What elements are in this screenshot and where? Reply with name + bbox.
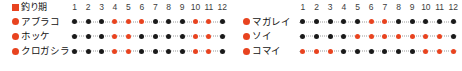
month-cell — [81, 34, 94, 39]
month-tick: 12 — [446, 2, 460, 13]
month-cell — [392, 19, 406, 24]
month-cell — [337, 34, 351, 39]
series-dot-icon — [12, 48, 19, 55]
season-dot-active — [437, 49, 442, 54]
season-dot — [180, 19, 185, 24]
month-cell — [122, 34, 135, 39]
chart-panel-right: 1 2 3 4 5 6 7 8 9 10 11 12 マガレイ — [231, 0, 462, 71]
series-dot-icon — [243, 18, 250, 25]
month-cell — [189, 49, 202, 54]
season-dot — [314, 34, 319, 39]
month-cell — [364, 19, 378, 24]
series-label: ホッケ — [21, 31, 50, 41]
month-tick: 5 — [351, 2, 365, 13]
month-cell — [323, 49, 337, 54]
series-dot-icon — [243, 33, 250, 40]
series-label-cell: クロガシラ — [12, 46, 68, 56]
month-cell — [337, 19, 351, 24]
season-dot — [328, 34, 333, 39]
month-cell — [378, 49, 392, 54]
month-cell — [296, 19, 310, 24]
season-dot-active — [382, 34, 387, 39]
month-cell — [135, 19, 148, 24]
season-dot — [355, 19, 360, 24]
season-dot-active — [112, 19, 117, 24]
season-dot-active — [410, 34, 415, 39]
month-cell — [419, 34, 433, 39]
season-dot-active — [193, 34, 198, 39]
season-dot-active — [369, 19, 374, 24]
season-dot — [99, 19, 104, 24]
month-tick: 3 — [323, 2, 337, 13]
month-cell — [68, 19, 81, 24]
season-dot — [180, 34, 185, 39]
month-cell — [364, 49, 378, 54]
season-dot-active — [423, 34, 428, 39]
month-cell — [351, 49, 365, 54]
month-tick: 12 — [216, 2, 229, 13]
chart-row: コマイ — [243, 44, 462, 59]
season-dot — [355, 49, 360, 54]
month-cell — [108, 49, 121, 54]
season-dot-active — [451, 49, 456, 54]
season-dot-active — [300, 49, 305, 54]
month-cell — [364, 34, 378, 39]
chart-row: マガレイ — [243, 15, 462, 30]
series-track — [296, 15, 462, 30]
month-cell — [378, 19, 392, 24]
series-label: マガレイ — [252, 17, 291, 27]
season-dot — [99, 34, 104, 39]
month-cell — [433, 19, 447, 24]
month-cell — [95, 19, 108, 24]
season-dot — [341, 49, 346, 54]
month-cell — [108, 19, 121, 24]
season-dot — [410, 49, 415, 54]
month-cell — [149, 19, 162, 24]
chart-row: ソイ — [243, 29, 462, 44]
month-cell — [351, 19, 365, 24]
month-tick: 3 — [95, 2, 108, 13]
month-cell — [81, 19, 94, 24]
season-dot — [341, 19, 346, 24]
month-cell — [378, 34, 392, 39]
month-tick: 5 — [122, 2, 135, 13]
season-square-icon — [12, 4, 19, 11]
season-dot — [166, 49, 171, 54]
season-dot — [153, 34, 158, 39]
month-cell — [337, 49, 351, 54]
season-dot — [437, 19, 442, 24]
month-tick: 8 — [392, 2, 406, 13]
season-dot-active — [437, 34, 442, 39]
month-cell — [405, 49, 419, 54]
season-dot — [166, 34, 171, 39]
season-dot — [300, 34, 305, 39]
series-label-cell: アブラコ — [12, 17, 68, 27]
series-track — [68, 15, 231, 30]
month-tick: 4 — [108, 2, 121, 13]
month-cell — [202, 19, 215, 24]
season-dot-active — [112, 49, 117, 54]
month-cell — [351, 34, 365, 39]
legend-entry: 釣り期 — [12, 2, 68, 12]
chart-header-row-right: 1 2 3 4 5 6 7 8 9 10 11 12 — [243, 0, 462, 15]
month-cell — [405, 34, 419, 39]
month-tick: 11 — [202, 2, 215, 13]
month-tick: 10 — [189, 2, 202, 13]
month-cell — [216, 19, 229, 24]
season-dot-active — [206, 34, 211, 39]
series-track — [68, 29, 231, 44]
month-cell — [296, 34, 310, 39]
month-cell — [392, 49, 406, 54]
month-tick: 7 — [149, 2, 162, 13]
month-tick: 9 — [405, 2, 419, 13]
month-tick: 2 — [81, 2, 94, 13]
month-cell — [135, 49, 148, 54]
month-cell — [122, 49, 135, 54]
month-cell — [392, 34, 406, 39]
season-dot-active — [355, 34, 360, 39]
month-cell — [189, 34, 202, 39]
season-dot-active — [112, 34, 117, 39]
month-cell — [189, 19, 202, 24]
season-dot-active — [396, 34, 401, 39]
season-dot — [396, 19, 401, 24]
